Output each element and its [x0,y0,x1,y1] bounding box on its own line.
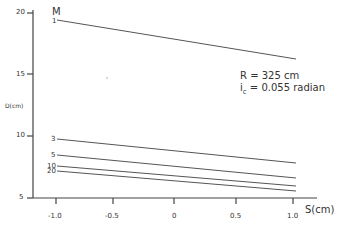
chart-plot [0,0,338,229]
y-axis-label: D(cm) [5,103,23,109]
y-tick-15: 15 [16,71,25,78]
x-tick-neg1: -1.0 [48,213,62,220]
series-m20 [57,171,296,191]
annotation-slope: ic = 0.055 radian [240,82,325,98]
annotation-radius: R = 325 cm [240,70,299,82]
x-axis-label: S(cm) [305,204,334,216]
x-tick-1: 1.0 [287,213,298,220]
series-label-3: 3 [51,136,55,143]
series-label-1: 1 [52,18,56,25]
x-tick-0: 0 [172,213,176,220]
y-tick-5: 5 [19,194,23,201]
y-tick-20: 20 [16,9,25,16]
series-m1 [57,20,296,59]
x-tick-neg05: -0.5 [105,213,119,220]
series-label-20: 20 [47,168,56,175]
x-tick-05: 0.5 [230,213,241,220]
y-tick-10: 10 [16,132,25,139]
series-m3 [57,139,296,163]
series-m10 [57,166,296,186]
series-label-5: 5 [51,152,55,159]
series-m5 [57,155,296,178]
